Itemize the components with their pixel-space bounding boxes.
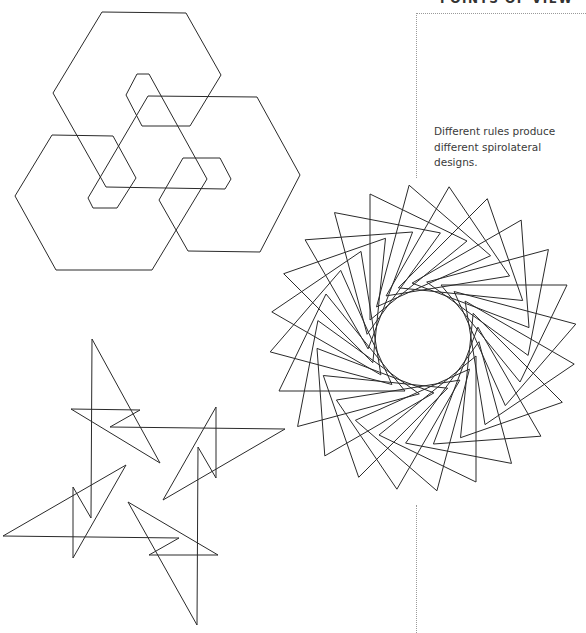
rosette-triangle [427, 250, 549, 356]
rosette-triangle [335, 213, 441, 335]
rosette-triangle [412, 220, 529, 328]
rosette-triangle [406, 342, 512, 464]
rosette-spirolateral-figure [270, 185, 576, 491]
rosette-triangle [305, 232, 413, 349]
hexagon-spirolateral-figure [15, 12, 300, 270]
rosette-triangle [298, 321, 420, 427]
rosette-triangle [433, 327, 541, 444]
spirolateral-figures [0, 0, 586, 633]
pinwheel-spirolateral-figure [3, 339, 285, 625]
rosette-triangle [317, 348, 434, 456]
